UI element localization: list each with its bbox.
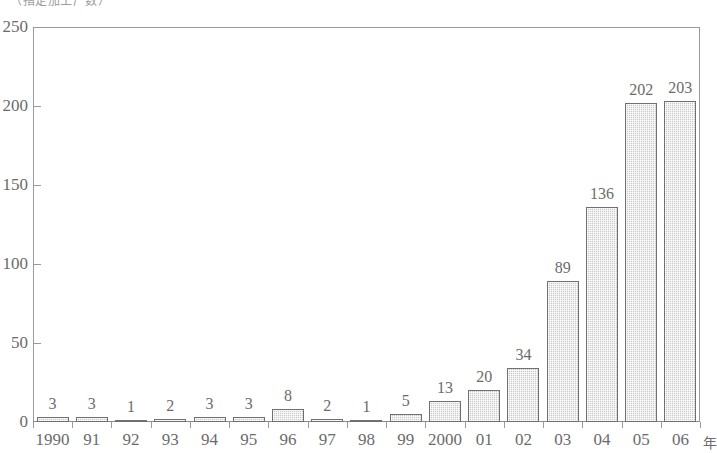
bar-value-label: 34	[515, 347, 531, 363]
x-axis: 19909192939495969798992000010203040506年	[33, 422, 700, 453]
bar-slot: 3	[33, 27, 72, 422]
x-axis-unit-label: 年	[703, 432, 717, 452]
x-axis-tick-label: 04	[593, 430, 610, 450]
x-axis-tick-label: 02	[515, 430, 532, 450]
bar-slot: 1	[347, 27, 386, 422]
x-axis-tick-label: 1990	[36, 430, 70, 450]
bar-slot: 136	[582, 27, 621, 422]
bar-slot: 202	[622, 27, 661, 422]
x-axis-tick-mark	[33, 422, 34, 428]
bar-slot: 203	[661, 27, 700, 422]
bar-value-label: 5	[402, 393, 410, 409]
bar-slot: 3	[229, 27, 268, 422]
x-axis-tick-label: 2000	[428, 430, 462, 450]
x-axis-tick-mark	[543, 422, 544, 428]
bar-value-label: 1	[362, 399, 370, 415]
bar	[625, 103, 657, 422]
x-axis-tick-mark	[622, 422, 623, 428]
x-axis-tick-label: 95	[240, 430, 257, 450]
x-axis-tick-mark	[268, 422, 269, 428]
bar-value-label: 3	[245, 396, 253, 412]
x-axis-tick-mark	[425, 422, 426, 428]
x-axis-tick-mark	[582, 422, 583, 428]
x-axis-tick-mark	[504, 422, 505, 428]
y-axis-tick-label: 150	[0, 175, 28, 195]
x-axis-tick-mark	[151, 422, 152, 428]
bar-value-label: 202	[629, 82, 653, 98]
bar-slot: 2	[308, 27, 347, 422]
bar-value-label: 20	[476, 369, 492, 385]
x-axis-tick-mark	[700, 422, 701, 428]
x-axis-tick-label: 96	[280, 430, 297, 450]
x-axis-tick-label: 03	[554, 430, 571, 450]
bar-value-label: 3	[49, 396, 57, 412]
x-axis-tick-mark	[386, 422, 387, 428]
bar-slot: 8	[268, 27, 307, 422]
bar	[272, 409, 304, 422]
bar-value-label: 2	[323, 398, 331, 414]
bar	[390, 414, 422, 422]
x-axis-tick-label: 94	[201, 430, 218, 450]
bar-slot: 2	[151, 27, 190, 422]
bar-slot: 3	[190, 27, 229, 422]
x-axis-tick-label: 91	[83, 430, 100, 450]
bar-series: 331233821513203489136202203	[33, 27, 700, 422]
bar-slot: 20	[465, 27, 504, 422]
bar-slot: 5	[386, 27, 425, 422]
x-axis-tick-mark	[661, 422, 662, 428]
x-axis-tick-mark	[229, 422, 230, 428]
bar	[664, 101, 696, 422]
bar	[429, 401, 461, 422]
x-axis-tick-label: 05	[633, 430, 650, 450]
bar-slot: 13	[425, 27, 464, 422]
bar-slot: 1	[111, 27, 150, 422]
bar-value-label: 3	[88, 396, 96, 412]
bar-value-label: 8	[284, 388, 292, 404]
bar	[586, 207, 618, 422]
bar-slot: 89	[543, 27, 582, 422]
y-axis-tick-label: 50	[0, 333, 28, 353]
bar	[468, 390, 500, 422]
x-axis-tick-mark	[465, 422, 466, 428]
x-axis-tick-mark	[347, 422, 348, 428]
bar-slot: 34	[504, 27, 543, 422]
bar-value-label: 203	[668, 80, 692, 96]
x-axis-tick-mark	[190, 422, 191, 428]
bar	[547, 281, 579, 422]
x-axis-tick-mark	[111, 422, 112, 428]
x-axis-tick-label: 01	[476, 430, 493, 450]
y-axis-tick-label: 200	[0, 96, 28, 116]
bar-value-label: 136	[590, 186, 614, 202]
bar-value-label: 13	[437, 380, 453, 396]
bar-value-label: 3	[206, 396, 214, 412]
bar-value-label: 89	[555, 260, 571, 276]
x-axis-tick-label: 99	[397, 430, 414, 450]
y-axis-tick-label: 250	[0, 17, 28, 37]
x-axis-tick-mark	[72, 422, 73, 428]
y-axis-tick-label: 100	[0, 254, 28, 274]
bar-value-label: 1	[127, 399, 135, 415]
x-axis-tick-label: 06	[672, 430, 689, 450]
x-axis-tick-mark	[308, 422, 309, 428]
x-axis-tick-label: 93	[162, 430, 179, 450]
bar-value-label: 2	[166, 398, 174, 414]
bar-slot: 3	[72, 27, 111, 422]
y-axis-tick-label: 0	[0, 412, 28, 432]
y-axis: 050100150200250	[0, 0, 33, 453]
x-axis-tick-label: 98	[358, 430, 375, 450]
x-axis-tick-label: 97	[319, 430, 336, 450]
bar	[507, 368, 539, 422]
x-axis-tick-label: 92	[123, 430, 140, 450]
